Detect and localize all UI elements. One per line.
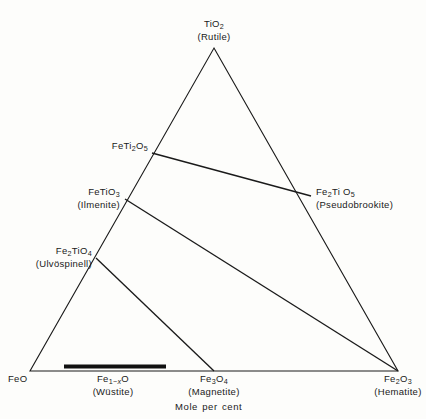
label-fe2tio5-pseudobrookite: Fe2Ti O5 (Pseudobrookite) xyxy=(316,186,426,210)
label-tio2-mineral: (Rutile) xyxy=(174,31,254,43)
label-tio2-rutile: TiO2 (Rutile) xyxy=(174,18,254,42)
tie-line-fe2tio4-fe3o4 xyxy=(96,258,214,371)
tie-line-fetio3-fe2o3 xyxy=(125,199,398,371)
label-fetio3-mineral: (Ilmenite) xyxy=(20,199,120,211)
label-feti2o5: FeTi2O5 xyxy=(48,140,148,153)
label-fe3o4-magnetite: Fe3O4 (Magnetite) xyxy=(174,373,254,397)
label-feo: FeO xyxy=(8,373,48,385)
label-fe2tio4-ulvospinel: Fe2TiO4 (Ulvöspinell) xyxy=(0,245,92,269)
label-fe2o3-formula: Fe2O3 xyxy=(358,373,426,386)
label-fe3o4-formula: Fe3O4 xyxy=(174,373,254,386)
label-wustite: Fe1−xO (Wüstite) xyxy=(73,373,153,397)
label-fe2o3-mineral: (Hematite) xyxy=(358,386,426,398)
label-wustite-formula: Fe1−xO xyxy=(73,373,153,386)
label-fe2tio4-formula: Fe2TiO4 xyxy=(0,245,92,258)
tie-line-feti2o5-fe2tio5 xyxy=(152,153,311,196)
label-fetio3-ilmenite: FeTiO3 (Ilmenite) xyxy=(20,186,120,210)
ternary-phase-diagram: TiO2 (Rutile) FeTi2O5 FeTiO3 (Ilmenite) … xyxy=(0,0,426,419)
axis-caption: Mole per cent xyxy=(175,401,242,412)
label-fetio3-formula: FeTiO3 xyxy=(20,186,120,199)
label-fe2o3-hematite: Fe2O3 (Hematite) xyxy=(358,373,426,397)
label-fe2tio4-mineral: (Ulvöspinell) xyxy=(0,258,92,270)
label-fe2tio5-mineral: (Pseudobrookite) xyxy=(316,199,426,211)
label-wustite-mineral: (Wüstite) xyxy=(73,386,153,398)
label-feti2o5-formula: FeTi2O5 xyxy=(48,140,148,153)
label-feo-formula: FeO xyxy=(8,373,48,385)
label-tio2-formula: TiO2 xyxy=(174,18,254,31)
label-fe3o4-mineral: (Magnetite) xyxy=(174,386,254,398)
label-fe2tio5-formula: Fe2Ti O5 xyxy=(316,186,426,199)
